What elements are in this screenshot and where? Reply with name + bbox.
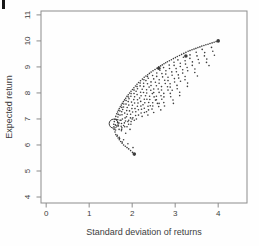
- whisker-dot: [194, 68, 196, 70]
- plot-frame: [41, 11, 247, 203]
- whisker-dot: [126, 107, 128, 109]
- whisker-dot: [153, 92, 155, 94]
- whisker-dot: [189, 54, 191, 56]
- frontier-dot: [149, 73, 151, 75]
- frontier-dot: [165, 62, 167, 64]
- whisker-dot: [192, 65, 194, 67]
- whisker-dot: [124, 126, 126, 128]
- whisker-dot: [195, 52, 197, 54]
- frontier-dot: [130, 150, 132, 152]
- frontier-dot: [171, 59, 173, 61]
- frontier-dot: [125, 97, 127, 99]
- whisker-dot: [173, 65, 175, 67]
- frontier-dot: [129, 92, 131, 94]
- whisker-dot: [180, 62, 182, 64]
- whisker-dot: [169, 86, 171, 88]
- whisker-dot: [147, 83, 149, 85]
- frontier-dot: [119, 108, 121, 110]
- whisker-dot: [183, 57, 185, 59]
- frontier-dot: [114, 121, 116, 123]
- frontier-dot: [119, 139, 121, 141]
- whisker-dot: [132, 105, 134, 107]
- whisker-dot: [180, 80, 182, 82]
- frontier-dot: [177, 56, 179, 58]
- frontier-dot: [120, 106, 122, 108]
- frontier-dot: [163, 63, 165, 65]
- y-tick-label: 7: [23, 116, 32, 121]
- whisker-dot: [144, 99, 146, 101]
- whisker-dot: [137, 88, 139, 90]
- whisker-dot: [164, 79, 166, 81]
- whisker-dot: [152, 75, 154, 77]
- stray-dot: [127, 143, 129, 145]
- frontier-dot: [139, 82, 141, 84]
- frontier-dot: [130, 93, 132, 95]
- frontier-dot: [185, 52, 187, 54]
- frontier-dot: [121, 104, 123, 106]
- frontier-dot: [169, 60, 171, 62]
- whisker-dot: [144, 112, 146, 114]
- whisker-dot: [143, 92, 145, 94]
- whisker-dot: [134, 108, 136, 110]
- frontier-dot: [150, 71, 152, 73]
- whisker-dot: [126, 116, 128, 118]
- whisker-dot: [155, 82, 157, 84]
- frontier-dot: [197, 47, 199, 49]
- whisker-dot: [137, 106, 139, 108]
- bold-point: [133, 152, 137, 156]
- stray-dot: [130, 123, 132, 125]
- whisker-dot: [165, 83, 167, 85]
- frontier-dot: [121, 142, 123, 144]
- whisker-dot: [163, 67, 165, 69]
- frontier-dot: [201, 45, 203, 47]
- whisker-dot: [130, 117, 132, 119]
- stray-dot: [119, 136, 121, 138]
- whisker-dot: [167, 86, 169, 88]
- y-axis-title: Expected return: [4, 75, 14, 139]
- whisker-dot: [148, 102, 150, 104]
- frontier-dot: [115, 129, 117, 131]
- frontier-dot: [162, 64, 164, 66]
- whisker-dot: [174, 78, 176, 80]
- whisker-dot: [169, 68, 171, 70]
- whisker-dot: [146, 111, 148, 113]
- whisker-dot: [160, 95, 162, 97]
- whisker-dot: [141, 109, 143, 111]
- y-tick-label: 9: [23, 64, 32, 69]
- whisker-dot: [131, 101, 133, 103]
- frontier-dot: [173, 58, 175, 60]
- frontier-dot: [140, 80, 142, 82]
- whisker-dot: [121, 123, 123, 125]
- whisker-dot: [169, 83, 171, 85]
- stray-dot: [125, 133, 127, 135]
- whisker-dot: [155, 99, 157, 101]
- stray-dot: [131, 118, 133, 120]
- frontier-dot: [123, 144, 125, 146]
- whisker-dot: [158, 92, 160, 94]
- stray-dot: [121, 130, 123, 132]
- y-tick-label: 6: [23, 142, 32, 147]
- whisker-dot: [129, 110, 131, 112]
- whisker-dot: [206, 58, 208, 60]
- whisker-dot: [124, 117, 126, 119]
- whisker-dot: [158, 82, 160, 84]
- whisker-dot: [204, 52, 206, 54]
- frontier-dot: [128, 96, 130, 98]
- whisker-dot: [162, 76, 164, 78]
- whisker-dot: [126, 110, 128, 112]
- whisker-dot: [130, 121, 132, 123]
- frontier-dot: [183, 53, 185, 55]
- frontier-dot: [143, 79, 145, 81]
- x-axis-title: Standard deviation of returns: [86, 227, 202, 237]
- frontier-dot: [120, 141, 122, 143]
- frontier-dot: [191, 49, 193, 51]
- whisker-dot: [194, 72, 196, 74]
- frontier-dot: [154, 69, 156, 71]
- bold-point: [157, 66, 161, 70]
- whisker-dot: [153, 112, 155, 114]
- whisker-dot: [156, 76, 158, 78]
- whisker-dot: [150, 105, 152, 107]
- whisker-dot: [128, 123, 130, 125]
- whisker-dot: [125, 120, 127, 122]
- whisker-dot: [152, 105, 154, 107]
